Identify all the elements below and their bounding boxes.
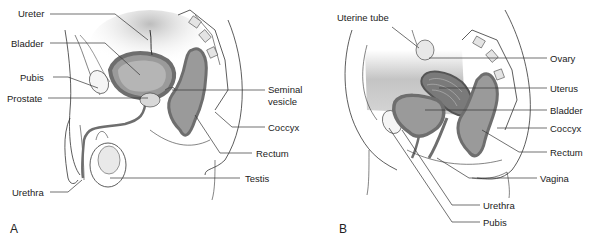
label-ureter: Ureter <box>18 8 44 19</box>
panel-a-male-pelvis: Ureter Bladder Pubis Prostate Seminal ve… <box>0 0 297 244</box>
label-rectum: Rectum <box>550 147 583 158</box>
label-rectum: Rectum <box>256 148 289 159</box>
label-uterine-tube: Uterine tube <box>337 12 389 23</box>
label-uterus: Uterus <box>550 83 578 94</box>
panel-letter-b: B <box>339 222 347 236</box>
panel-letter-a: A <box>10 222 18 236</box>
label-testis: Testis <box>245 173 269 184</box>
label-pubis: Pubis <box>20 72 44 83</box>
panel-b-female-pelvis: Uterine tube Ovary Uterus Bladder Coccyx… <box>297 0 594 244</box>
female-pelvis-illustration <box>297 0 594 244</box>
label-ovary: Ovary <box>550 53 575 64</box>
label-bladder: Bladder <box>11 38 44 49</box>
label-coccyx: Coccyx <box>550 123 581 134</box>
label-vagina: Vagina <box>540 173 569 184</box>
label-seminal-vesicle-line2: vesicle <box>268 96 297 107</box>
label-urethra: Urethra <box>483 200 515 211</box>
label-coccyx: Coccyx <box>268 122 299 133</box>
label-prostate: Prostate <box>7 93 42 104</box>
label-pubis: Pubis <box>483 217 507 228</box>
label-bladder: Bladder <box>550 105 583 116</box>
label-urethra: Urethra <box>12 187 44 198</box>
male-pelvis-illustration <box>0 0 297 244</box>
